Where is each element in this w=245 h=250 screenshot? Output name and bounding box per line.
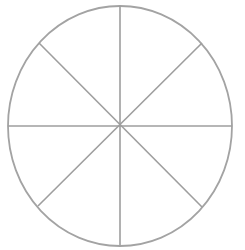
circle-sectors-diagram <box>0 0 245 250</box>
figure-canvas <box>0 0 245 250</box>
